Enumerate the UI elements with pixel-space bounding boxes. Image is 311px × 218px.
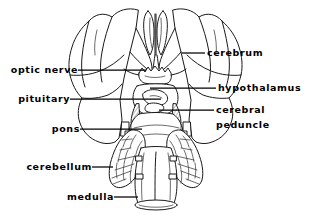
longitudinal-fissure	[153, 55, 159, 68]
pituitary-gland	[145, 103, 164, 113]
label-pituitary: pituitary	[0, 93, 70, 105]
medulla-oblongata	[135, 147, 177, 211]
label-optic-nerve: optic nerve	[0, 64, 78, 76]
label-medulla: medulla	[0, 191, 114, 203]
olfactory-bulbs	[144, 11, 168, 55]
optic-chiasm	[139, 66, 172, 84]
brain-diagram-figure: optic nerve pituitary pons cerebellum me…	[0, 0, 311, 218]
label-cerebellum: cerebellum	[0, 161, 92, 173]
label-hypothalamus: hypothalamus	[218, 82, 301, 94]
label-cerebral-peduncle-line2: peduncle	[216, 119, 270, 131]
label-pons: pons	[0, 123, 80, 135]
label-cerebral-peduncle-line1: cerebral	[216, 104, 265, 116]
label-cerebrum: cerebrum	[207, 47, 263, 59]
